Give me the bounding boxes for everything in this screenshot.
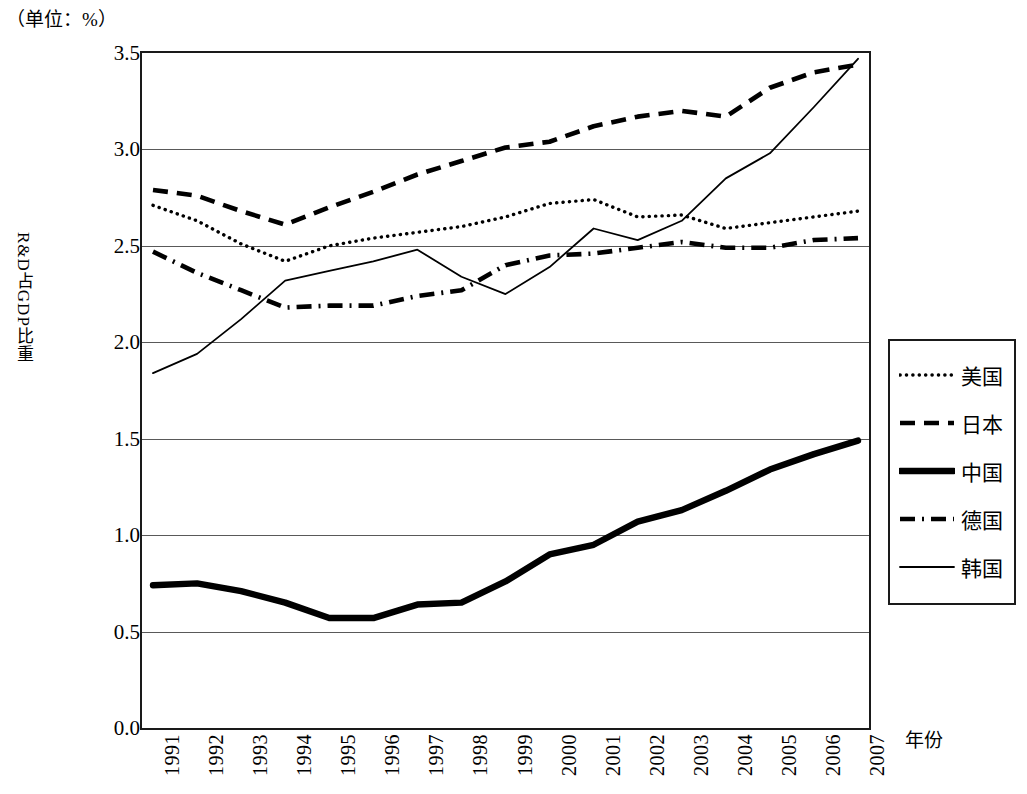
y-tick-label: 3.0 <box>80 137 140 162</box>
plot-inner <box>142 53 869 728</box>
x-tick-label: 2006 <box>822 734 845 776</box>
legend-label: 美国 <box>961 360 1003 390</box>
plot-area <box>140 51 871 730</box>
legend: 美国日本中国德国韩国 <box>888 339 1016 605</box>
x-tick-label: 2001 <box>602 734 625 776</box>
y-tick-label: 2.5 <box>80 233 140 258</box>
x-tick-label: 2000 <box>558 734 581 776</box>
x-axis-ticks: 1991199219931994199519961997199819992000… <box>140 732 871 794</box>
y-axis-title: R&D占GDP比重 <box>8 232 38 363</box>
x-tick-label: 2004 <box>734 734 757 776</box>
x-tick-label: 1991 <box>161 734 184 776</box>
series-line-日本 <box>153 65 858 225</box>
legend-item-中国[interactable]: 中国 <box>890 447 1014 495</box>
x-tick-label: 1999 <box>514 734 537 776</box>
x-tick-label: 1997 <box>425 734 448 776</box>
legend-label: 德国 <box>961 504 1003 534</box>
legend-label: 日本 <box>961 408 1003 438</box>
series-layer <box>142 53 869 728</box>
x-axis-title: 年份 <box>905 725 943 752</box>
unit-caption: （单位：%） <box>6 4 117 31</box>
y-tick-label: 3.5 <box>80 41 140 66</box>
legend-swatch-icon <box>899 513 955 525</box>
legend-item-德国[interactable]: 德国 <box>890 495 1014 543</box>
y-tick-label: 2.0 <box>80 330 140 355</box>
y-tick-label: 1.0 <box>80 523 140 548</box>
x-tick-label: 1994 <box>293 734 316 776</box>
y-tick-label: 1.5 <box>80 426 140 451</box>
legend-item-韩国[interactable]: 韩国 <box>890 543 1014 591</box>
legend-label: 韩国 <box>961 552 1003 582</box>
y-axis-ticks: 3.53.02.52.01.51.00.50.0 <box>60 51 140 730</box>
x-tick-label: 2002 <box>646 734 669 776</box>
y-tick-label: 0.5 <box>80 619 140 644</box>
legend-item-美国[interactable]: 美国 <box>890 351 1014 399</box>
legend-item-日本[interactable]: 日本 <box>890 399 1014 447</box>
legend-swatch-icon <box>899 417 955 429</box>
legend-swatch-icon <box>899 369 955 381</box>
x-tick-label: 2003 <box>690 734 713 776</box>
x-tick-label: 1995 <box>337 734 360 776</box>
x-tick-label: 1998 <box>469 734 492 776</box>
chart-page: （单位：%） R&D占GDP比重 3.53.02.52.01.51.00.50.… <box>0 0 1027 794</box>
x-tick-label: 2007 <box>866 734 889 776</box>
legend-swatch-icon <box>899 561 955 573</box>
x-tick-label: 1996 <box>381 734 404 776</box>
x-tick-label: 2005 <box>778 734 801 776</box>
series-line-德国 <box>153 238 858 307</box>
x-tick-label: 1992 <box>205 734 228 776</box>
series-line-美国 <box>153 200 858 262</box>
legend-swatch-icon <box>899 465 955 477</box>
x-tick-label: 1993 <box>249 734 272 776</box>
legend-label: 中国 <box>961 456 1003 486</box>
y-tick-label: 0.0 <box>80 716 140 741</box>
series-line-中国 <box>153 441 858 618</box>
